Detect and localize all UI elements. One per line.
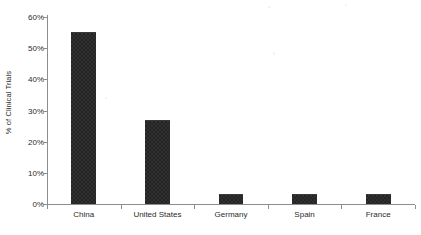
x-axis-tick-label: France [366, 210, 391, 219]
y-axis-tick-label: 50% [14, 44, 44, 53]
y-axis-tick-labels: 0%10%20%30%40%50%60% [14, 0, 44, 235]
x-axis-tick-mark [121, 205, 122, 209]
plot-area [47, 17, 415, 204]
x-axis-tick-mark [341, 205, 342, 209]
scan-noise-speck [345, 4, 347, 6]
x-axis-tick-label: China [73, 210, 94, 219]
x-axis-tick-label: United States [133, 210, 181, 219]
x-axis-tick-mark [415, 205, 416, 209]
x-axis-tick-mark [47, 205, 48, 209]
bar-chart: % of Clinical Trials 0%10%20%30%40%50%60… [0, 0, 421, 235]
scan-noise-speck [268, 6, 271, 8]
y-axis-title-text: % of Clinical Trials [5, 71, 14, 134]
y-axis-tick-label: 40% [14, 75, 44, 84]
bar [145, 120, 170, 204]
y-axis-tick-label: 20% [14, 137, 44, 146]
x-axis-tick-mark [194, 205, 195, 209]
y-axis-tick-label: 30% [14, 106, 44, 115]
x-axis-tick-mark [268, 205, 269, 209]
bar [71, 32, 96, 204]
x-axis-tick-label: Germany [215, 210, 248, 219]
y-axis-tick-label: 0% [14, 200, 44, 209]
bar [219, 194, 244, 204]
x-axis-line [46, 204, 415, 205]
x-axis-tick-label: Spain [294, 210, 314, 219]
bar [366, 194, 391, 204]
bar [292, 194, 317, 204]
y-axis-tick-label: 10% [14, 168, 44, 177]
y-axis-tick-label: 60% [14, 13, 44, 22]
